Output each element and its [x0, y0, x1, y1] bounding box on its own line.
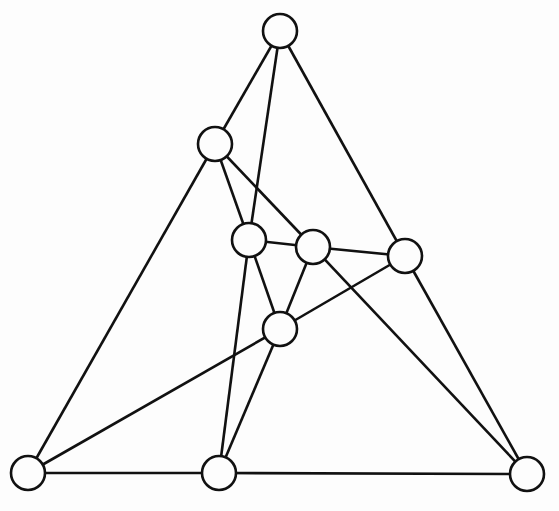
edge-d-e	[280, 256, 405, 329]
graph-svg	[0, 0, 559, 511]
edges-group	[28, 31, 527, 474]
edge-top-a	[215, 31, 280, 144]
node-b	[232, 223, 266, 257]
node-d	[388, 239, 422, 273]
node-bl	[11, 456, 45, 490]
node-bm	[202, 456, 236, 490]
edge-e-bl	[28, 329, 280, 473]
graph-diagram	[0, 0, 559, 511]
node-top	[263, 14, 297, 48]
node-a	[198, 127, 232, 161]
edge-bm-br	[219, 473, 527, 474]
node-br	[510, 457, 544, 491]
edge-a-bl	[28, 144, 215, 473]
edge-top-d	[280, 31, 405, 256]
nodes-group	[11, 14, 544, 491]
node-e	[263, 312, 297, 346]
node-c	[296, 230, 330, 264]
